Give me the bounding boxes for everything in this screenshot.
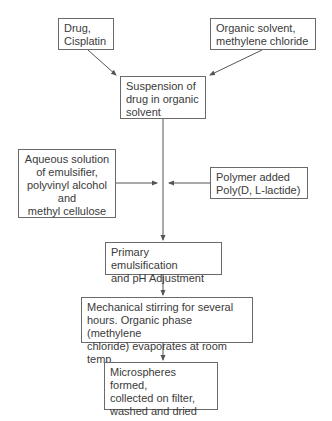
- node-suspension: Suspension of drug in organic solvent: [120, 76, 206, 119]
- arrow-drug-to-suspension: [88, 50, 116, 75]
- node-primary-emulsification: Primary emulsification and pH Adjustment: [105, 242, 222, 275]
- node-polymer-added: Polymer added Poly(D, L-lactide): [210, 167, 308, 199]
- node-microspheres-formed: Microspheres formed, collected on filter…: [104, 362, 218, 410]
- arrow-solvent-to-suspension: [210, 50, 262, 75]
- node-drug-cisplatin: Drug, Cisplatin: [58, 18, 114, 50]
- node-mechanical-stirring: Mechanical stirring for several hours. O…: [81, 297, 253, 343]
- node-aqueous-solution: Aqueous solution of emulsifier, polyviny…: [18, 149, 116, 218]
- node-organic-solvent: Organic solvent, methylene chloride: [210, 18, 316, 50]
